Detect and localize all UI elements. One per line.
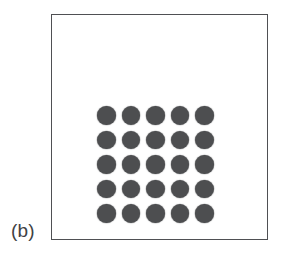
lattice-dot bbox=[171, 131, 189, 149]
lattice-cell bbox=[97, 204, 116, 223]
lattice-cell bbox=[97, 130, 116, 149]
lattice-dot bbox=[171, 180, 189, 198]
figure-panel-b: (b) bbox=[0, 0, 285, 264]
panel-label: (b) bbox=[11, 220, 35, 242]
lattice-dot bbox=[146, 204, 164, 222]
lattice-dot bbox=[97, 204, 115, 222]
lattice-dot bbox=[195, 131, 213, 149]
lattice-cell bbox=[170, 155, 189, 174]
lattice-dot bbox=[97, 155, 115, 173]
lattice-cell bbox=[170, 179, 189, 198]
lattice-cell bbox=[195, 106, 214, 125]
lattice-dot bbox=[122, 131, 140, 149]
lattice-dot bbox=[171, 204, 189, 222]
lattice-cell bbox=[170, 204, 189, 223]
lattice-dot bbox=[146, 106, 164, 124]
lattice-cell bbox=[121, 204, 140, 223]
lattice-dot bbox=[146, 155, 164, 173]
lattice-cell bbox=[146, 106, 165, 125]
lattice-cell bbox=[146, 204, 165, 223]
lattice-dot bbox=[171, 155, 189, 173]
lattice-cell bbox=[121, 179, 140, 198]
lattice-dot bbox=[171, 106, 189, 124]
lattice-cell bbox=[170, 130, 189, 149]
lattice-dot bbox=[195, 106, 213, 124]
lattice-cell bbox=[195, 179, 214, 198]
lattice-dot bbox=[122, 204, 140, 222]
lattice-dot bbox=[97, 106, 115, 124]
lattice-cell bbox=[146, 155, 165, 174]
lattice-cell bbox=[121, 106, 140, 125]
lattice-cell bbox=[97, 155, 116, 174]
lattice-cell bbox=[121, 130, 140, 149]
lattice-cell bbox=[195, 204, 214, 223]
lattice-cell bbox=[146, 179, 165, 198]
dot-lattice bbox=[97, 106, 214, 223]
lattice-dot bbox=[195, 155, 213, 173]
lattice-dot bbox=[122, 155, 140, 173]
lattice-cell bbox=[195, 130, 214, 149]
lattice-cell bbox=[121, 155, 140, 174]
lattice-cell bbox=[170, 106, 189, 125]
lattice-cell bbox=[195, 155, 214, 174]
lattice-cell bbox=[97, 106, 116, 125]
lattice-dot bbox=[146, 180, 164, 198]
lattice-dot bbox=[195, 204, 213, 222]
lattice-dot bbox=[146, 131, 164, 149]
lattice-dot bbox=[97, 131, 115, 149]
lattice-dot bbox=[122, 106, 140, 124]
lattice-dot bbox=[122, 180, 140, 198]
lattice-dot bbox=[97, 180, 115, 198]
lattice-dot bbox=[195, 180, 213, 198]
lattice-cell bbox=[97, 179, 116, 198]
lattice-cell bbox=[146, 130, 165, 149]
